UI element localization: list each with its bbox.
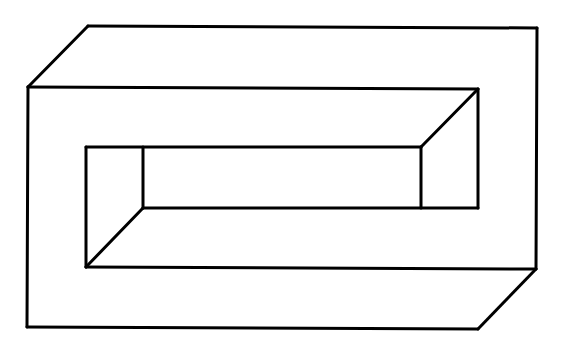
inner-front-bottom-edge bbox=[86, 267, 536, 269]
outer-back-right-edge bbox=[536, 28, 537, 269]
outer-back-top-edge bbox=[88, 26, 537, 28]
impossible-frame-drawing bbox=[0, 0, 564, 356]
impossible-frame-figure bbox=[0, 0, 564, 356]
outer-front-left-edge bbox=[27, 87, 28, 327]
outer-front-bottom-edge bbox=[27, 327, 478, 329]
outer-front-top-edge bbox=[28, 87, 478, 89]
